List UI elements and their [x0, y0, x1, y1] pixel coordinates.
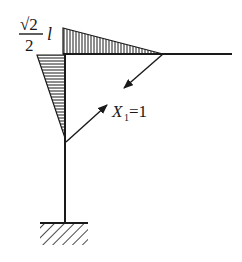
force-arrow-down-left [124, 54, 163, 88]
moment-value-label: √2 2 l [19, 15, 52, 55]
force-label: X 1 =1 [111, 102, 147, 123]
fixed-support [40, 223, 88, 245]
column-moment-region [37, 55, 65, 138]
force-arrow-up-right [66, 105, 107, 142]
force-symbol: X [111, 102, 123, 121]
length-symbol: l [47, 24, 52, 44]
fraction-denominator: 2 [25, 36, 34, 55]
beam-moment-region [63, 28, 163, 54]
fraction-numerator: √2 [20, 15, 38, 34]
moment-diagram: √2 2 l X 1 =1 [0, 0, 242, 262]
force-value: =1 [129, 102, 147, 121]
